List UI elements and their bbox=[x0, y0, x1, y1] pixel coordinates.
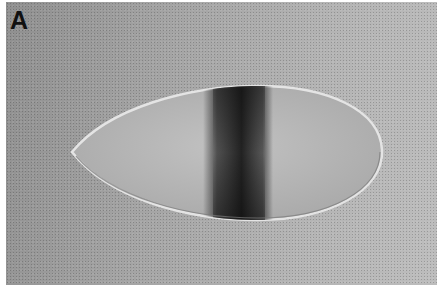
micrograph-image: A bbox=[6, 2, 437, 285]
panel-label: A bbox=[10, 8, 28, 33]
embryo bbox=[68, 80, 386, 226]
